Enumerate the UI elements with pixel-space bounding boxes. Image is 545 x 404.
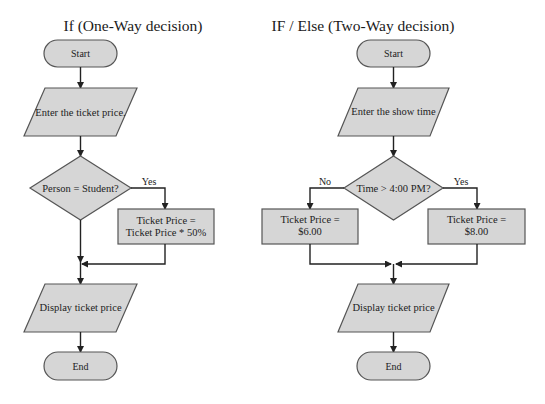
right-decision-label: Time > 4:00 PM? [356,183,430,194]
right-no-process-line2: $6.00 [298,226,322,237]
right-start-label: Start [384,48,403,59]
right-no-label: No [319,176,331,187]
left-title: If (One-Way decision) [63,17,202,35]
right-yes-label: Yes [454,176,469,187]
one-way-flowchart: If (One-Way decision) Start Enter the ti… [24,17,214,380]
left-process-line1: Ticket Price = [136,215,195,226]
arrow-yes-to-process [131,188,165,209]
flowchart-canvas: If (One-Way decision) Start Enter the ti… [0,0,545,404]
left-end-label: End [72,361,88,372]
left-process-line2: Ticket Price * 50% [126,227,207,238]
arrow-yes-to-process [443,188,477,209]
left-input-label: Enter the ticket price. [35,107,125,118]
right-input-label: Enter the show time [351,106,436,117]
right-output-label: Display ticket price [352,302,435,313]
arrow-process-merge [82,244,165,264]
arrow-no-merge [310,244,391,264]
right-yes-process-line1: Ticket Price = [447,214,506,225]
arrow-no-to-process [310,188,344,209]
right-no-process-line1: Ticket Price = [280,214,339,225]
left-yes-label: Yes [142,176,157,187]
right-end-label: End [385,361,401,372]
right-yes-process-line2: $8.00 [465,226,489,237]
arrow-yes-merge [396,244,477,264]
left-decision-label: Person = Student? [42,183,119,194]
two-way-flowchart: IF / Else (Two-Way decision) Start Enter… [262,17,525,380]
left-output-label: Display ticket price [39,302,122,313]
right-title: IF / Else (Two-Way decision) [272,17,455,35]
left-start-label: Start [71,48,90,59]
